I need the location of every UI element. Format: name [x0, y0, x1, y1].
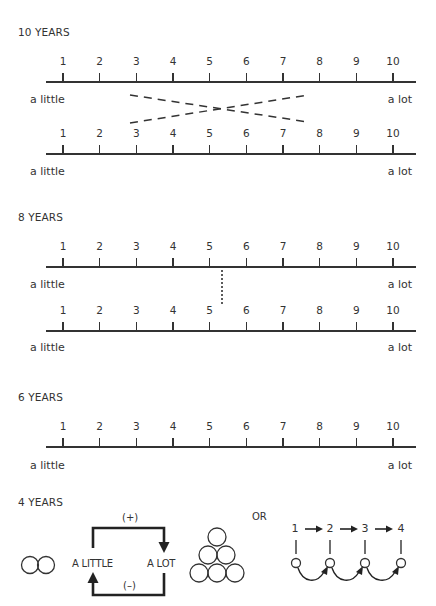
- arrow-down-icon: [159, 542, 170, 553]
- six-circles-triangle-icon: [190, 528, 244, 582]
- arrow-up-icon: [88, 572, 99, 583]
- curved-hop-arrows: [298, 568, 395, 580]
- diagram-graphics: [0, 0, 436, 606]
- chain-connectors: [296, 540, 401, 554]
- plus-label: (+): [122, 512, 138, 524]
- or-label: OR: [252, 511, 267, 523]
- a-little-label: A LITTLE: [72, 558, 113, 570]
- chain-arrows: [305, 526, 393, 533]
- chain-number: 2: [323, 522, 337, 536]
- a-lot-label: A LOT: [147, 558, 175, 570]
- chain-number: 1: [288, 522, 302, 536]
- minus-label: (–): [123, 580, 136, 592]
- two-circles-icon: [22, 557, 55, 574]
- chain-circles: [292, 559, 406, 568]
- chain-number: 3: [358, 522, 372, 536]
- chain-number: 4: [394, 522, 408, 536]
- dashed-cross-lines: [130, 95, 308, 123]
